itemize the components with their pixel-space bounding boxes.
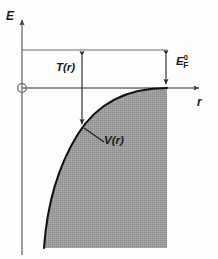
potential-energy-label: V(r) (104, 135, 124, 147)
potential-shaded-region (44, 88, 167, 248)
y-axis-label: E (6, 10, 14, 22)
kinetic-energy-label: T(r) (56, 62, 75, 74)
x-axis-label: r (197, 96, 202, 108)
fermi-energy-label: E0F (176, 54, 189, 70)
diagram-canvas (0, 0, 218, 259)
energy-potential-diagram: E r T(r) V(r) E0F (0, 0, 218, 259)
fermi-energy-subscript: F (183, 60, 188, 70)
